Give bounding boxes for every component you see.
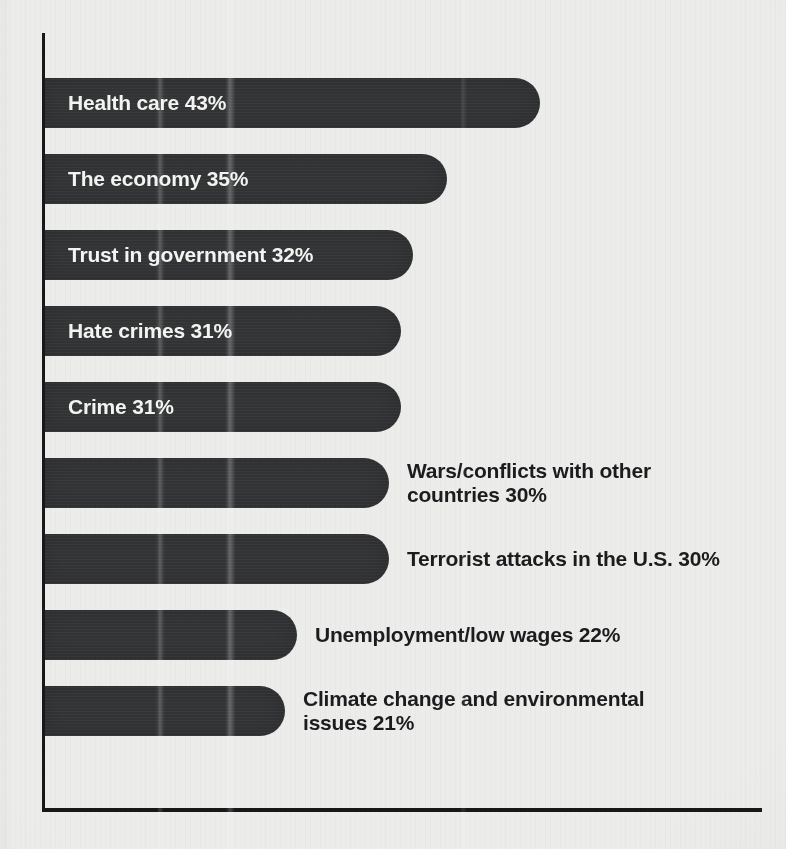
bar-label-unemployment-low-wages: Unemployment/low wages 22% (315, 623, 620, 647)
bar-terrorist-attacks-in-the-us (42, 534, 389, 584)
bar-label-text: Unemployment/low wages (315, 623, 579, 646)
bar-label-text: Trust in government (68, 243, 272, 266)
bar-value-label: 22% (579, 623, 620, 646)
bar-label-text: Terrorist attacks in the U.S. (407, 547, 678, 570)
bar-row: Hate crimes 31% (42, 306, 786, 356)
bar-label-text: Climate change and environmental issues (303, 687, 644, 734)
bar-label-climate-change-and-environmental-issues: Climate change and environmental issues … (303, 687, 644, 734)
bar-climate-change-and-environmental-issues (42, 686, 285, 736)
x-axis-line (42, 808, 762, 812)
bar-label-wars-conflicts-with-other-countries: Wars/conflicts with other countries 30% (407, 459, 651, 506)
bar-value-label: 21% (373, 711, 414, 734)
bar-unemployment-low-wages (42, 610, 297, 660)
horizontal-bar-chart: Health care 43%The economy 35%Trust in g… (0, 0, 786, 849)
bar-value-label: 31% (191, 319, 232, 342)
bar-row: Health care 43% (42, 78, 786, 128)
bar-label-health-care: Health care 43% (68, 91, 226, 115)
bar-value-label: 30% (505, 483, 546, 506)
bar-value-label: 31% (132, 395, 173, 418)
bar-wars-conflicts-with-other-countries (42, 458, 389, 508)
bar-label-text: Health care (68, 91, 185, 114)
bar-row: Unemployment/low wages 22% (42, 610, 786, 660)
bar-value-label: 30% (678, 547, 719, 570)
bar-label-the-economy: The economy 35% (68, 167, 248, 191)
bar-label-trust-in-government: Trust in government 32% (68, 243, 313, 267)
bar-row: Crime 31% (42, 382, 786, 432)
bar-label-crime: Crime 31% (68, 395, 174, 419)
y-axis-line (42, 33, 45, 812)
bar-row: Climate change and environmental issues … (42, 686, 786, 736)
bar-row: Terrorist attacks in the U.S. 30% (42, 534, 786, 584)
bar-value-label: 32% (272, 243, 313, 266)
bar-row: Wars/conflicts with other countries 30% (42, 458, 786, 508)
bar-value-label: 35% (207, 167, 248, 190)
bar-row: The economy 35% (42, 154, 786, 204)
bar-label-text: The economy (68, 167, 207, 190)
bar-label-text: Crime (68, 395, 132, 418)
bar-row: Trust in government 32% (42, 230, 786, 280)
bar-value-label: 43% (185, 91, 226, 114)
bar-label-hate-crimes: Hate crimes 31% (68, 319, 232, 343)
bar-label-terrorist-attacks-in-the-us: Terrorist attacks in the U.S. 30% (407, 547, 720, 571)
bar-label-text: Hate crimes (68, 319, 191, 342)
